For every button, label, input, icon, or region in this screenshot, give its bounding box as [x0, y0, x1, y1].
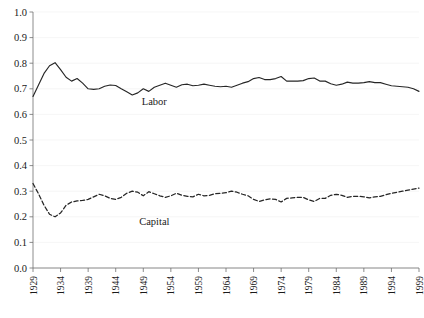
x-tick-label: 1979	[304, 276, 314, 295]
x-tick-label: 1964	[222, 276, 232, 295]
x-tick-label: 1969	[249, 276, 259, 295]
x-tick-label: 1949	[139, 276, 149, 295]
annotation-labor: Labor	[142, 96, 168, 107]
y-tick-label: 0.8	[14, 58, 27, 69]
y-tick-label: 0.7	[14, 83, 27, 94]
x-tick-label: 1999	[415, 276, 424, 295]
y-tick-label: 0.0	[14, 263, 27, 274]
line-chart: 0.00.10.20.30.40.50.60.70.80.91.0 192919…	[0, 0, 424, 318]
x-tick-label: 1929	[29, 276, 39, 295]
y-tick-label: 0.1	[14, 237, 27, 248]
y-tick-label: 1.0	[14, 7, 27, 18]
y-tick-label: 0.3	[14, 186, 27, 197]
x-tick-label: 1934	[56, 276, 66, 295]
x-tick-label: 1944	[111, 276, 121, 295]
x-tick-label: 1974	[277, 276, 287, 295]
x-tick-label: 1959	[194, 276, 204, 295]
y-tick-label: 0.6	[14, 109, 27, 120]
chart-background	[0, 0, 424, 318]
x-tick-label: 1954	[166, 276, 176, 295]
x-tick-label: 1984	[332, 276, 342, 295]
y-tick-label: 0.5	[14, 135, 27, 146]
y-tick-label: 0.9	[14, 32, 27, 43]
chart-container: 0.00.10.20.30.40.50.60.70.80.91.0 192919…	[0, 0, 424, 318]
y-tick-label: 0.2	[14, 211, 27, 222]
x-tick-label: 1939	[84, 276, 94, 295]
y-tick-label: 0.4	[14, 160, 28, 171]
x-tick-label: 1989	[359, 276, 369, 295]
x-tick-label: 1994	[387, 276, 397, 295]
annotation-capital: Capital	[139, 216, 169, 227]
